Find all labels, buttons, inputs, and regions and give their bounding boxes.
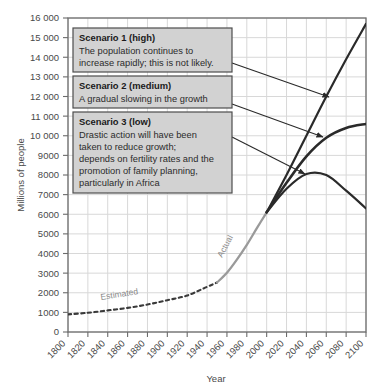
annotation-scenario-3-line-3: depends on fertility rates and the (79, 154, 214, 164)
y-axis-tick-label: 0 (54, 326, 59, 337)
y-axis-tick-label: 13 000 (30, 71, 59, 82)
annotation-scenario-3-line-4: promotion of family planning, (79, 166, 198, 176)
chart-container: 010002000300040005000600070008000900010 … (0, 0, 381, 391)
y-axis-tick-label: 6000 (38, 209, 59, 220)
annotation-scenario-2-line-1: A gradual slowing in the growth (79, 94, 208, 104)
y-axis-tick-label: 2000 (38, 287, 59, 298)
y-axis-title: Millions of people (15, 138, 26, 211)
y-axis-tick-label: 1000 (38, 307, 59, 318)
annotation-scenario-2-title: Scenario 2 (medium) (79, 80, 171, 91)
y-axis-tick-label: 15 000 (30, 32, 59, 43)
y-axis-tick-label: 12 000 (30, 91, 59, 102)
annotation-scenario-3-line-2: taken to reduce growth; (79, 142, 176, 152)
y-axis-tick-label: 5000 (38, 228, 59, 239)
y-axis-tick-label: 4000 (38, 248, 59, 259)
y-axis-tick-label: 11 000 (31, 111, 59, 122)
x-axis-title: Year (206, 373, 225, 384)
population-projection-chart: 010002000300040005000600070008000900010 … (0, 0, 381, 391)
annotation-scenario-1-line-2: increase rapidly; this is not likely. (79, 58, 214, 68)
y-axis-tick-label: 10 000 (30, 130, 59, 141)
y-axis-tick-label: 14 000 (30, 52, 59, 63)
annotation-scenario-1-line-1: The population continues to (79, 46, 193, 56)
annotation-scenario-3-title: Scenario 3 (low) (79, 116, 151, 127)
y-axis-tick-label: 9000 (38, 150, 59, 161)
y-axis-tick-label: 3000 (38, 268, 59, 279)
annotation-scenario-2: Scenario 2 (medium) A gradual slowing in… (73, 76, 232, 108)
annotation-scenario-3-line-5: particularly in Africa (79, 178, 160, 188)
annotation-scenario-1-title: Scenario 1 (high) (79, 32, 155, 43)
annotation-scenario-1: Scenario 1 (high) The population continu… (73, 28, 232, 72)
annotation-scenario-3: Scenario 3 (low) Drastic action will hav… (73, 112, 232, 193)
y-axis-tick-label: 8000 (38, 169, 59, 180)
annotation-scenario-3-line-1: Drastic action will have been (79, 130, 197, 140)
y-axis-tick-label: 7000 (38, 189, 59, 200)
y-axis-tick-label: 16 000 (30, 12, 59, 23)
